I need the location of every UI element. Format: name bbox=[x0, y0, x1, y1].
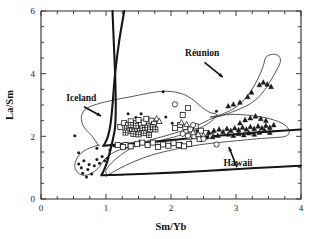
data-point-filled-circle bbox=[85, 176, 88, 179]
data-point-filled-triangle bbox=[243, 117, 248, 122]
data-point-filled-circle bbox=[88, 163, 91, 166]
data-point-filled-circle bbox=[101, 155, 104, 158]
field-outline-runion bbox=[210, 54, 280, 117]
data-point-open-square bbox=[115, 143, 120, 148]
data-point-crossed-square bbox=[123, 130, 128, 135]
data-point-open-circle bbox=[191, 122, 196, 127]
data-point-open-square bbox=[135, 141, 140, 146]
data-point-filled-circle bbox=[127, 112, 130, 115]
data-point-filled-circle bbox=[77, 162, 80, 165]
data-point-filled-circle bbox=[98, 162, 101, 165]
data-point-open-square bbox=[182, 144, 187, 149]
data-point-crossed-square bbox=[153, 127, 158, 132]
data-point-open-circle bbox=[214, 142, 219, 147]
data-point-open-square bbox=[140, 140, 145, 145]
data-point-filled-circle bbox=[90, 172, 93, 175]
data-point-filled-triangle bbox=[224, 126, 229, 131]
annotation-arrow-iceland bbox=[84, 107, 101, 116]
data-point-filled-circle bbox=[95, 147, 98, 150]
x-tick-label: 1 bbox=[104, 203, 109, 213]
data-point-open-circle bbox=[201, 136, 206, 141]
data-point-open-square bbox=[156, 144, 161, 149]
axis-titles-group: Sm/YbLa/Sm bbox=[4, 90, 187, 232]
data-point-filled-triangle bbox=[217, 127, 222, 132]
data-point-open-square bbox=[120, 144, 125, 149]
data-point-filled-circle bbox=[77, 151, 80, 154]
data-point-filled-circle bbox=[215, 110, 218, 113]
data-point-filled-triangle bbox=[248, 115, 253, 120]
tick-marks-group bbox=[41, 11, 301, 199]
figure-container: 012340246 IcelandRéunionHawaii Sm/YbLa/S… bbox=[0, 0, 319, 239]
data-point-filled-triangle bbox=[256, 124, 261, 129]
data-point-filled-triangle bbox=[240, 125, 245, 130]
data-point-crossed-square bbox=[128, 123, 133, 128]
data-point-open-triangle bbox=[184, 121, 190, 126]
data-point-open-triangle bbox=[179, 119, 185, 124]
data-point-open-square bbox=[171, 141, 176, 146]
data-point-filled-triangle bbox=[263, 123, 268, 128]
data-point-filled-triangle bbox=[248, 124, 253, 129]
data-point-crossed-square bbox=[133, 123, 138, 128]
data-point-open-circle bbox=[185, 133, 190, 138]
data-point-open-square bbox=[136, 118, 141, 123]
annotations-group: IcelandRéunionHawaii bbox=[66, 48, 253, 168]
data-point-filled-circle bbox=[82, 159, 85, 162]
data-point-filled-triangle bbox=[261, 80, 266, 85]
plot-frame bbox=[41, 11, 301, 199]
data-point-open-square bbox=[172, 126, 177, 131]
data-point-filled-triangle bbox=[271, 122, 276, 127]
data-point-filled-circle bbox=[164, 115, 167, 118]
y-tick-label: 2 bbox=[31, 132, 36, 142]
x-tick-label: 0 bbox=[39, 203, 44, 213]
data-point-open-square bbox=[176, 143, 181, 148]
data-point-filled-circle bbox=[86, 168, 89, 171]
data-point-filled-circle bbox=[162, 90, 165, 93]
data-point-filled-circle bbox=[81, 172, 84, 175]
annotation-label-runion: Réunion bbox=[185, 48, 220, 58]
annotation-label-iceland: Iceland bbox=[66, 93, 97, 103]
data-point-filled-circle bbox=[73, 134, 76, 137]
y-tick-label: 0 bbox=[31, 194, 36, 204]
data-point-filled-triangle bbox=[226, 104, 231, 109]
y-axis-title: La/Sm bbox=[4, 90, 15, 120]
data-point-crossed-square bbox=[146, 133, 151, 138]
annotation-arrow-runion bbox=[205, 62, 223, 77]
x-axis-title: Sm/Yb bbox=[156, 221, 187, 232]
data-point-open-square bbox=[128, 144, 133, 149]
data-point-filled-circle bbox=[80, 166, 83, 169]
data-point-filled-circle bbox=[140, 112, 143, 115]
series-filled-triangles bbox=[206, 114, 276, 139]
data-point-filled-circle bbox=[171, 122, 174, 125]
model-curves-group bbox=[101, 11, 301, 175]
data-point-filled-triangle bbox=[237, 120, 242, 125]
data-point-open-square bbox=[166, 143, 171, 148]
data-point-open-square bbox=[150, 140, 155, 145]
data-point-filled-circle bbox=[95, 158, 98, 161]
y-tick-label: 4 bbox=[31, 69, 36, 79]
data-point-filled-triangle bbox=[231, 102, 236, 107]
data-point-open-circle bbox=[180, 131, 185, 136]
data-point-filled-circle bbox=[103, 159, 106, 162]
data-point-filled-circle bbox=[93, 164, 96, 167]
data-point-filled-triangle bbox=[232, 125, 237, 130]
data-point-filled-circle bbox=[108, 149, 111, 152]
data-point-open-square bbox=[180, 113, 185, 118]
axes-group bbox=[41, 11, 301, 199]
data-point-open-square bbox=[185, 106, 190, 111]
model-curve-mixing-line-lower bbox=[101, 166, 301, 175]
scatter-plot: 012340246 IcelandRéunionHawaii Sm/YbLa/S… bbox=[0, 0, 319, 239]
data-point-open-square bbox=[187, 141, 192, 146]
data-point-crossed-square bbox=[136, 132, 141, 137]
data-point-open-circle bbox=[172, 102, 177, 107]
data-point-open-square bbox=[144, 116, 149, 121]
x-tick-label: 4 bbox=[299, 203, 304, 213]
annotation-label-hawaii: Hawaii bbox=[223, 158, 252, 168]
data-point-crossed-square bbox=[131, 131, 136, 136]
data-point-crossed-square bbox=[141, 131, 146, 136]
data-point-filled-circle bbox=[106, 157, 109, 160]
data-point-filled-triangle bbox=[245, 94, 250, 99]
y-tick-label: 6 bbox=[31, 6, 36, 16]
data-point-filled-triangle bbox=[211, 128, 216, 133]
data-point-open-square bbox=[145, 143, 150, 148]
x-tick-label: 2 bbox=[169, 203, 174, 213]
